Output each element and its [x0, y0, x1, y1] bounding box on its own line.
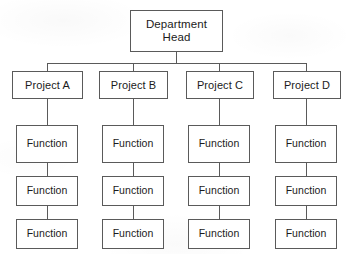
- node-project-c-label: Project C: [195, 79, 245, 91]
- node-project-a[interactable]: Project A: [12, 71, 83, 99]
- connector-bus-to-project-c: [219, 63, 220, 71]
- connector-bus-to-project-d: [306, 63, 307, 71]
- node-function-b-3-label: Function: [111, 228, 156, 240]
- node-project-a-label: Project A: [23, 79, 72, 91]
- node-function-d-1[interactable]: Function: [275, 125, 337, 163]
- node-function-d-3-label: Function: [284, 228, 329, 240]
- connector-function-d-1-to-2: [306, 163, 307, 176]
- node-function-c-3-label: Function: [197, 228, 242, 240]
- node-department-head[interactable]: Department Head: [130, 10, 223, 52]
- node-function-b-3[interactable]: Function: [102, 219, 164, 249]
- node-project-b-label: Project B: [109, 79, 159, 91]
- node-function-c-1[interactable]: Function: [188, 125, 250, 163]
- node-function-b-1[interactable]: Function: [102, 125, 164, 163]
- node-function-d-1-label: Function: [284, 138, 329, 150]
- node-function-c-3[interactable]: Function: [188, 219, 250, 249]
- connector-function-a-2-to-3: [47, 206, 48, 219]
- org-chart-diagram: Department Head Project A Project B Proj…: [0, 0, 353, 254]
- node-function-d-3[interactable]: Function: [275, 219, 337, 249]
- node-function-a-1[interactable]: Function: [16, 125, 78, 163]
- connector-project-c-to-function-1: [219, 99, 220, 125]
- connector-function-b-2-to-3: [133, 206, 134, 219]
- node-function-b-1-label: Function: [111, 138, 156, 150]
- node-function-d-2-label: Function: [284, 185, 329, 197]
- connector-project-d-to-function-1: [306, 99, 307, 125]
- connector-horizontal-bus: [47, 63, 306, 64]
- node-department-head-label: Department Head: [144, 18, 209, 44]
- node-function-c-1-label: Function: [197, 138, 242, 150]
- connector-project-b-to-function-1: [133, 99, 134, 125]
- node-function-b-2[interactable]: Function: [102, 176, 164, 206]
- connector-function-d-2-to-3: [306, 206, 307, 219]
- node-project-c[interactable]: Project C: [186, 71, 254, 99]
- node-function-c-2[interactable]: Function: [188, 176, 250, 206]
- node-function-c-2-label: Function: [197, 185, 242, 197]
- node-function-a-1-label: Function: [25, 138, 70, 150]
- node-project-d-label: Project D: [282, 79, 332, 91]
- connector-bus-to-project-a: [47, 63, 48, 71]
- connector-bus-to-project-b: [133, 63, 134, 71]
- node-project-d[interactable]: Project D: [273, 71, 341, 99]
- connector-function-b-1-to-2: [133, 163, 134, 176]
- node-function-a-3[interactable]: Function: [16, 219, 78, 249]
- connector-function-c-1-to-2: [219, 163, 220, 176]
- node-function-a-2-label: Function: [25, 185, 70, 197]
- node-function-d-2[interactable]: Function: [275, 176, 337, 206]
- node-project-b[interactable]: Project B: [99, 71, 168, 99]
- connector-root-stem: [176, 52, 177, 63]
- connector-function-a-1-to-2: [47, 163, 48, 176]
- node-function-b-2-label: Function: [111, 185, 156, 197]
- node-function-a-3-label: Function: [25, 228, 70, 240]
- node-function-a-2[interactable]: Function: [16, 176, 78, 206]
- connector-function-c-2-to-3: [219, 206, 220, 219]
- connector-project-a-to-function-1: [47, 99, 48, 125]
